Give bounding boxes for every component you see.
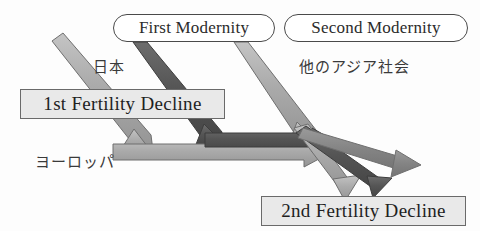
label-japan: 日本 [93,58,125,76]
label-other-asian-societies: 他のアジア社会 [299,58,410,76]
label-europe: ヨーロッパ [35,153,115,171]
pill-first-modernity[interactable]: First Modernity [113,14,275,42]
diagram-canvas: First Modernity Second Modernity 日本 他のアジ… [0,0,480,231]
pill-second-modernity[interactable]: Second Modernity [284,14,468,42]
box-first-fertility-decline[interactable]: 1st Fertility Decline [20,89,225,119]
box-second-fertility-decline[interactable]: 2nd Fertility Decline [261,196,466,226]
